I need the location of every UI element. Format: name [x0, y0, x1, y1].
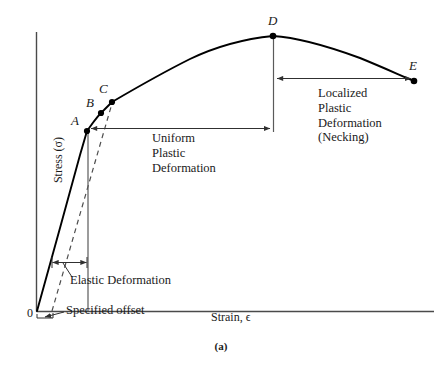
data-point-D — [270, 33, 277, 40]
specified-offset-leader — [45, 312, 64, 317]
elastic-deformation-label: Elastic Deformation — [70, 273, 171, 288]
point-label-e: E — [409, 58, 417, 73]
uniform-plastic-deformation-label: Uniform Plastic Deformation — [152, 131, 216, 175]
data-point-C — [109, 99, 115, 105]
data-point-A — [84, 128, 90, 134]
point-label-d: D — [268, 13, 277, 28]
x-axis-title: Strain, ϵ — [211, 310, 251, 324]
data-point-E — [411, 78, 418, 85]
figure-caption: (a) — [0, 340, 442, 353]
stress-strain-curve — [37, 36, 414, 311]
y-axis-title: Stress (σ) — [51, 105, 65, 215]
point-label-b: B — [86, 95, 94, 110]
point-label-a: A — [71, 113, 79, 128]
specified-offset-label: Specified offset — [66, 303, 145, 318]
localized-plastic-deformation-label: Localized Plastic Deformation (Necking) — [318, 86, 382, 145]
point-label-c: C — [99, 81, 108, 96]
stress-strain-figure: Stress (σ) Strain, ϵ 0 A B C D E Uniform… — [0, 0, 442, 367]
origin-label: 0 — [27, 306, 33, 320]
data-point-B — [98, 110, 104, 116]
